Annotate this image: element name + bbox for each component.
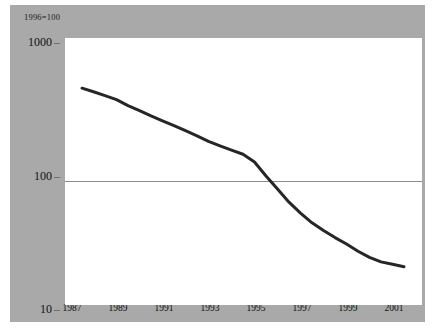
y-tick-mark [54,177,60,178]
data-line-index [82,88,404,267]
index-base-note: 1996=100 [24,12,60,22]
y-tick-mark [54,43,60,44]
chart-panel: 1996=100 100010010 198719891991199319951… [10,5,425,322]
y-tick-label: 100 [10,169,52,184]
y-tick-label: 10 [10,302,52,317]
y-tick-label: 1000 [10,35,52,50]
data-series-group [82,88,404,267]
chart-plot-svg [65,38,422,305]
plot-area [65,38,422,305]
chart-figure: 1996=100 100010010 198719891991199319951… [0,0,437,332]
